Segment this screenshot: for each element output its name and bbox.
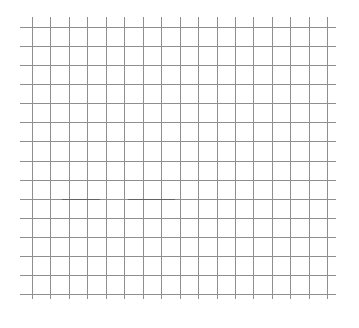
grid-horizontal-line [20, 256, 336, 257]
grid-horizontal-line [20, 237, 336, 238]
grid-horizontal-line [20, 103, 336, 104]
grid-horizontal-line [20, 218, 336, 219]
grid-horizontal-line [20, 180, 336, 181]
grid-horizontal-line [20, 65, 336, 66]
grid-horizontal-line [20, 141, 336, 142]
pencil-mark [62, 199, 100, 200]
grid-horizontal-line [20, 46, 336, 47]
grid-horizontal-line [20, 122, 336, 123]
grid-horizontal-line [20, 161, 336, 162]
grid-paper [0, 0, 359, 328]
grid-horizontal-line [20, 294, 336, 295]
grid-horizontal-line [20, 27, 336, 28]
grid-horizontal-line [20, 84, 336, 85]
pencil-mark [128, 199, 175, 200]
grid-horizontal-line [20, 275, 336, 276]
